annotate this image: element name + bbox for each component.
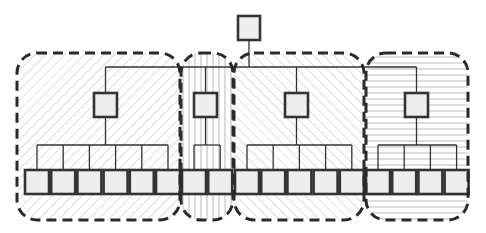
group-3-leaf-node[interactable] (261, 170, 285, 194)
root-node[interactable] (238, 16, 260, 40)
group-1-leaf-node[interactable] (25, 170, 49, 194)
tree-diagram (0, 0, 486, 233)
group-1-leaf-node[interactable] (77, 170, 101, 194)
group-2-leaf-node[interactable] (182, 170, 206, 194)
group-1-leaf-node[interactable] (156, 170, 180, 194)
group-1-leaf-node[interactable] (130, 170, 154, 194)
group-1-leaf-node[interactable] (104, 170, 128, 194)
group-4-leaf-node[interactable] (418, 170, 442, 194)
group-4-leaf-node[interactable] (392, 170, 416, 194)
group-3-mid-node[interactable] (285, 93, 308, 117)
group-3-leaf-node[interactable] (235, 170, 259, 194)
group-4-mid-node[interactable] (405, 93, 428, 117)
group-3-leaf-node[interactable] (287, 170, 311, 194)
diagram-canvas (0, 0, 486, 233)
group-1-leaf-node[interactable] (51, 170, 75, 194)
group-4-leaf-node[interactable] (445, 170, 469, 194)
group-2-mid-node[interactable] (194, 93, 217, 117)
group-2-leaf-node[interactable] (208, 170, 232, 194)
group-1-mid-node[interactable] (94, 93, 117, 117)
group-3-leaf-node[interactable] (340, 170, 364, 194)
group-4-leaf-node[interactable] (366, 170, 390, 194)
group-3-leaf-node[interactable] (314, 170, 338, 194)
